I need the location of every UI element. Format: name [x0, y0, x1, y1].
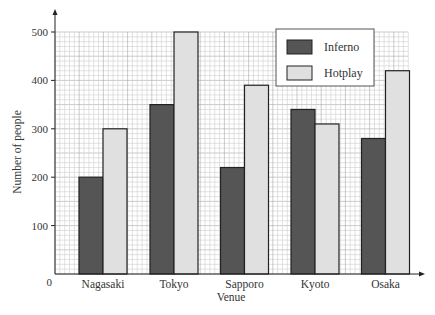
- x-axis-title: Venue: [217, 291, 246, 303]
- x-tick-label: Nagasaki: [82, 278, 125, 291]
- x-tick-label: Sapporo: [225, 278, 264, 291]
- y-tick-label: 500: [32, 26, 49, 38]
- legend-label-inferno: Inferno: [324, 40, 359, 54]
- bar-inferno-tokyo: [150, 105, 174, 274]
- x-tick-label: Osaka: [371, 278, 400, 290]
- y-tick-label: 0: [47, 276, 53, 288]
- legend-swatch-hotplay: [287, 66, 312, 80]
- y-axis-ticks: 0100200300400500: [32, 26, 56, 288]
- bar-inferno-sapporo: [221, 168, 245, 274]
- bar-hotplay-osaka: [386, 71, 410, 274]
- x-tick-label: Tokyo: [159, 278, 188, 291]
- bar-inferno-nagasaki: [79, 177, 103, 274]
- legend-label-hotplay: Hotplay: [324, 66, 363, 80]
- y-axis-arrow-icon: [53, 9, 58, 15]
- bar-chart: 0100200300400500 NagasakiTokyoSapporoKyo…: [0, 0, 435, 315]
- x-tick-label: Kyoto: [301, 278, 330, 291]
- bar-hotplay-tokyo: [174, 32, 198, 274]
- y-tick-label: 400: [32, 74, 49, 86]
- y-tick-label: 100: [32, 220, 49, 232]
- bar-inferno-kyoto: [291, 109, 315, 274]
- y-tick-label: 200: [32, 171, 49, 183]
- x-axis-category-labels: NagasakiTokyoSapporoKyotoOsaka: [82, 278, 400, 291]
- legend-swatch-inferno: [287, 40, 312, 54]
- chart-legend: Inferno Hotplay: [276, 29, 374, 86]
- bar-hotplay-sapporo: [245, 85, 269, 274]
- y-axis-title: Number of people: [11, 110, 24, 194]
- y-tick-label: 300: [32, 123, 49, 135]
- x-axis-arrow-icon: [419, 272, 425, 277]
- bar-inferno-osaka: [362, 138, 386, 274]
- bar-hotplay-nagasaki: [103, 129, 127, 274]
- bar-hotplay-kyoto: [315, 124, 339, 274]
